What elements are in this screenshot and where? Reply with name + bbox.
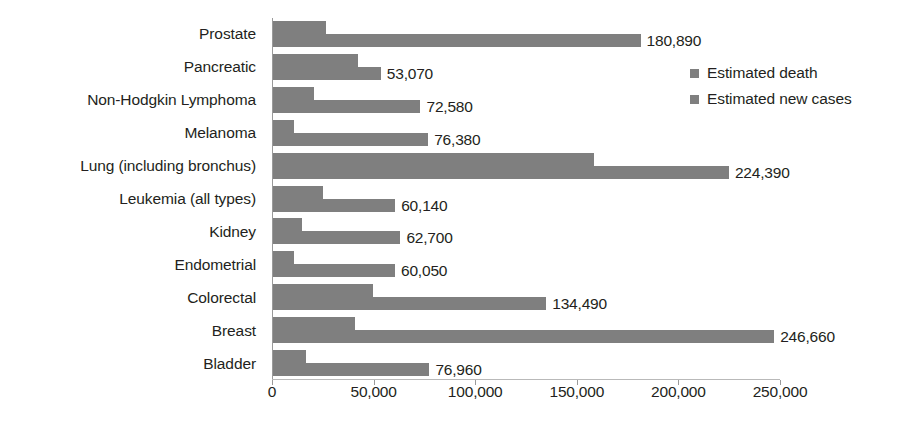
value-axis-tick-label: 250,000: [753, 384, 808, 400]
category-axis-label: Bladder: [203, 356, 256, 372]
legend-swatch-icon: [690, 95, 699, 104]
legend-label: Estimated death: [707, 65, 818, 81]
bar-estimated-death: [273, 350, 306, 363]
bar-estimated-death: [273, 218, 302, 231]
bar-value-label: 60,140: [401, 199, 447, 212]
legend-swatch-icon: [690, 69, 699, 78]
category-axis-label: Endometrial: [174, 257, 256, 273]
category-axis: ProstatePancreaticNon-Hodgkin LymphomaMe…: [0, 18, 264, 380]
value-axis-tick-label: 0: [268, 384, 276, 400]
chart-legend: Estimated deathEstimated new cases: [690, 60, 852, 112]
bar-estimated-new-cases: [273, 330, 774, 343]
bar-value-label: 134,490: [552, 297, 607, 310]
value-axis-tick-label: 150,000: [549, 384, 604, 400]
bar-estimated-death: [273, 54, 358, 67]
bar-estimated-death: [273, 284, 373, 297]
bar-estimated-new-cases: [273, 133, 428, 146]
bar-estimated-new-cases: [273, 166, 729, 179]
bar-estimated-death: [273, 251, 294, 264]
value-axis-tick-label: 200,000: [651, 384, 706, 400]
category-axis-label: Non-Hodgkin Lymphoma: [87, 92, 256, 108]
category-axis-label: Lung (including bronchus): [80, 158, 256, 174]
value-axis-labels: 050,000100,000150,000200,000250,000: [272, 384, 912, 412]
bar-estimated-death: [273, 120, 294, 133]
legend-item[interactable]: Estimated new cases: [690, 86, 852, 112]
category-axis-label: Leukemia (all types): [119, 191, 256, 207]
legend-item[interactable]: Estimated death: [690, 60, 852, 86]
category-axis-label: Breast: [212, 323, 256, 339]
bar-estimated-death: [273, 21, 326, 34]
bar-estimated-new-cases: [273, 100, 420, 113]
bar-estimated-new-cases: [273, 67, 381, 80]
category-axis-label: Melanoma: [184, 125, 256, 141]
category-axis-label: Pancreatic: [184, 59, 256, 75]
bar-estimated-new-cases: [273, 231, 400, 244]
bar-value-label: 72,580: [426, 100, 472, 113]
bar-value-label: 53,070: [387, 67, 433, 80]
category-axis-label: Colorectal: [187, 290, 256, 306]
category-axis-label: Prostate: [199, 26, 256, 42]
legend-label: Estimated new cases: [707, 91, 852, 107]
bar-estimated-new-cases: [273, 199, 395, 212]
bar-estimated-new-cases: [273, 363, 429, 376]
bar-value-label: 180,890: [647, 34, 702, 47]
bar-value-label: 224,390: [735, 166, 790, 179]
bar-estimated-death: [273, 186, 323, 199]
value-axis-tick-label: 100,000: [448, 384, 503, 400]
bar-chart: ProstatePancreaticNon-Hodgkin LymphomaMe…: [0, 0, 919, 445]
bar-estimated-new-cases: [273, 264, 395, 277]
bar-estimated-death: [273, 153, 594, 166]
bar-estimated-death: [273, 87, 314, 100]
bar-value-label: 246,660: [780, 330, 835, 343]
bar-estimated-new-cases: [273, 34, 641, 47]
category-axis-line: [272, 379, 780, 380]
bar-estimated-death: [273, 317, 355, 330]
value-axis-tick-label: 50,000: [350, 384, 396, 400]
bar-value-label: 76,960: [435, 363, 481, 376]
bar-value-label: 60,050: [401, 264, 447, 277]
bar-estimated-new-cases: [273, 297, 546, 310]
bar-value-label: 62,700: [406, 231, 452, 244]
bar-value-label: 76,380: [434, 133, 480, 146]
category-axis-label: Kidney: [209, 224, 256, 240]
